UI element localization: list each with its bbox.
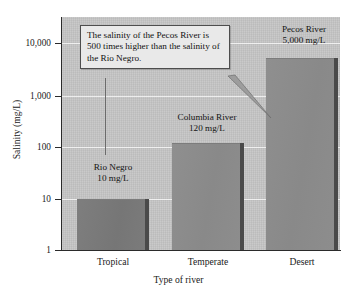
bar-desert[interactable] <box>266 58 334 250</box>
y-tick-label-1: 1 <box>46 246 51 255</box>
bar-tropical[interactable] <box>77 199 145 250</box>
y-tick-label-10000: 10,000 <box>25 39 51 48</box>
y-tick-label-1000: 1,000 <box>30 92 51 101</box>
y-axis-line <box>61 17 62 251</box>
bar-tropical-shadow <box>145 199 149 250</box>
y-tick-label-100: 100 <box>37 143 51 152</box>
datalabel-rio-negro: Rio Negro 10 mg/L <box>67 162 159 184</box>
bar-temperate[interactable] <box>172 143 240 250</box>
y-tick-10 <box>55 199 62 200</box>
datalabel-columbia-river: Columbia River 120 mg/L <box>152 112 262 134</box>
datalabel-pecos-name: Pecos River <box>258 24 350 35</box>
annotation-callout: The salinity of the Pecos River is 500 t… <box>80 25 230 69</box>
y-tick-10000 <box>55 43 62 44</box>
y-tick-1 <box>55 250 62 251</box>
y-tick-100 <box>55 147 62 148</box>
x-tick-label-desert: Desert <box>266 256 338 267</box>
x-axis-line <box>61 250 341 251</box>
y-tick-label-10: 10 <box>42 195 51 204</box>
datalabel-rio-negro-value: 10 mg/L <box>67 173 159 184</box>
y-tick-1000 <box>55 96 62 97</box>
salinity-bar-chart: 10,000 1,000 100 10 1 Salinity (mg/L) Tr… <box>0 0 357 297</box>
datalabel-pecos-river: Pecos River 5,000 mg/L <box>258 24 350 46</box>
x-tick-label-tropical: Tropical <box>77 256 149 267</box>
y-axis-title: Salinity (mg/L) <box>11 65 22 195</box>
bar-desert-shadow <box>334 58 338 250</box>
bar-temperate-shadow <box>240 143 244 250</box>
x-tick-label-temperate: Temperate <box>172 256 244 267</box>
datalabel-rio-negro-name: Rio Negro <box>67 162 159 173</box>
datalabel-columbia-name: Columbia River <box>152 112 262 123</box>
x-axis-title: Type of river <box>0 274 357 285</box>
datalabel-columbia-value: 120 mg/L <box>152 123 262 134</box>
callout-leader-line-rio-negro <box>105 78 106 155</box>
datalabel-pecos-value: 5,000 mg/L <box>258 35 350 46</box>
